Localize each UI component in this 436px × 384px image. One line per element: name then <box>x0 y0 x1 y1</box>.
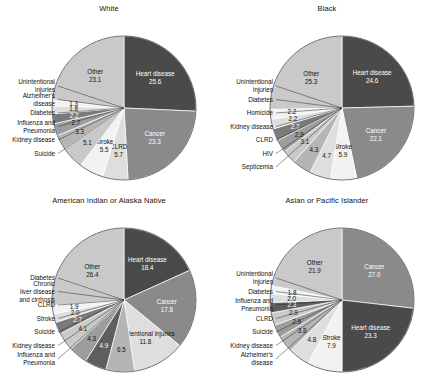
slice-value: 26.4 <box>86 271 99 278</box>
slice-value: 2.7 <box>73 316 82 323</box>
slice-label: Kidney disease <box>12 136 55 144</box>
chart-panel-asian-or-pacific-islander: Asian or Pacific Islander Cancer27.0Hear… <box>218 192 436 384</box>
slice-label: Heart disease <box>353 69 392 76</box>
slice-value: 11.8 <box>140 338 152 345</box>
slice-label: Unintentional <box>236 78 273 85</box>
slice-label: Unintentional <box>18 78 55 85</box>
slice-value: 2.0 <box>71 309 80 316</box>
slice-label: CLRD <box>256 136 274 143</box>
slice-label: Septicemia <box>242 163 274 171</box>
slice-value: 6.5 <box>117 346 126 353</box>
slice-label: Suicide <box>34 328 55 335</box>
slice-label: Diabetes <box>30 109 55 116</box>
slice-value: 1.9 <box>70 303 79 310</box>
slice-value: 3.3 <box>75 128 84 135</box>
slice-value: 3.8 <box>298 327 307 334</box>
slice-label: Cancer <box>157 298 177 305</box>
slice-value: 2.2 <box>70 112 79 119</box>
slice-value: 5.7 <box>114 151 123 158</box>
pie-white: Heart disease25.6Cancer23.3CLRD5.7Stroke… <box>0 0 218 192</box>
slice-value: 2.2 <box>287 108 296 115</box>
slice-label: HIV <box>263 150 274 157</box>
slice-value: 5.1 <box>83 139 92 146</box>
slice-label: injuries <box>253 86 273 94</box>
slice-value: 4.7 <box>322 152 331 159</box>
slice-value: 2.9 <box>289 309 298 316</box>
pie-slice <box>342 300 414 372</box>
slice-label: Pneumonia <box>23 127 55 134</box>
slice-label: CLRD <box>38 301 56 308</box>
slice-value: 18.4 <box>141 264 154 271</box>
slice-value: 2.9 <box>295 131 304 138</box>
slice-value: 1.3 <box>69 100 78 107</box>
slice-label: Other <box>303 70 319 77</box>
slice-label: Kidney disease <box>12 342 55 350</box>
slice-label: Influenza and <box>235 297 273 304</box>
slice-value: 5.9 <box>339 151 348 158</box>
slice-label: Suicide <box>252 328 273 335</box>
chart-panel-white: White Heart disease25.6Cancer23.3CLRD5.7… <box>0 0 218 192</box>
slice-label: Heart disease <box>128 256 167 263</box>
slice-value: 24.6 <box>366 77 379 84</box>
slice-label: Stroke <box>37 315 56 322</box>
slice-value: 5.5 <box>100 146 109 153</box>
slice-label: CLRD <box>256 315 274 322</box>
pie-black: Heart disease24.6Cancer22.1Stroke5.9Othe… <box>218 0 436 192</box>
slice-value: 4.8 <box>307 336 316 343</box>
slice-label: disease <box>33 100 55 107</box>
slice-label: Cancer <box>366 127 386 134</box>
slice-value: 4.3 <box>87 335 96 342</box>
slice-label: Other <box>87 68 103 75</box>
slice-label: Other <box>307 259 323 266</box>
pie-chart-grid: White Heart disease25.6Cancer23.3CLRD5.7… <box>0 0 436 384</box>
slice-label: Suicide <box>34 150 55 157</box>
slice-label: Heart disease <box>351 324 390 331</box>
slice-label: Cancer <box>145 130 165 137</box>
slice-value: 1.8 <box>288 289 297 296</box>
slice-label: Pneumonia <box>23 359 55 366</box>
slice-label: Heart disease <box>136 70 175 77</box>
slice-value: 22.1 <box>370 135 383 142</box>
slice-label: Alzheimer's <box>241 351 273 358</box>
slice-value: 2.0 <box>287 295 296 302</box>
pie-asian-or-pacific-islander: Cancer27.0Heart disease23.3Stroke7.9Othe… <box>218 192 436 384</box>
slice-label: Kidney disease <box>230 123 273 131</box>
slice-value: 2.7 <box>291 123 300 130</box>
slice-label: Chronic <box>33 280 55 287</box>
slice-label: Stroke <box>322 334 341 341</box>
slice-label: Pneumonia <box>241 305 273 312</box>
slice-value: 21.9 <box>309 267 322 274</box>
slice-value: 25.6 <box>149 78 162 85</box>
slice-value: 7.9 <box>327 342 336 349</box>
slice-label: Stroke <box>334 143 353 150</box>
slice-label: Alzheimer's <box>23 92 55 99</box>
slice-label: Diabetes <box>248 96 273 103</box>
slice-value: 2.2 <box>289 115 298 122</box>
slice-value: 4.9 <box>100 342 109 349</box>
slice-label: liver disease <box>20 288 55 295</box>
slice-value: 23.1 <box>89 76 102 83</box>
chart-panel-american-indian-or-alaska-native: American Indian or Alaska Native Heart d… <box>0 192 218 384</box>
slice-value: 2.3 <box>288 301 297 308</box>
slice-value: 23.3 <box>149 138 162 145</box>
slice-label: Diabetes <box>248 288 273 295</box>
slice-label: Influenza and <box>17 351 55 358</box>
slice-value: 4.3 <box>309 146 318 153</box>
slice-value: 23.3 <box>365 332 378 339</box>
slice-label: Influenza and <box>17 119 55 126</box>
slice-label: Homicide <box>247 109 274 116</box>
slice-value: 17.8 <box>161 306 174 313</box>
slice-label: Cancer <box>364 263 384 270</box>
slice-value: 2.9 <box>292 318 301 325</box>
slice-label: Other <box>84 263 100 270</box>
chart-panel-black: Black Heart disease24.6Cancer22.1Stroke5… <box>218 0 436 192</box>
slice-label: Kidney disease <box>230 342 273 350</box>
pie-american-indian-or-alaska-native: Heart disease18.4Cancer17.8Unintentional… <box>0 192 218 384</box>
slice-label: Unintentional <box>236 270 273 277</box>
slice-label: disease <box>251 359 273 366</box>
slice-label: injuries <box>253 278 273 286</box>
slice-value: 25.3 <box>305 78 318 85</box>
slice-value: 27.0 <box>368 271 381 278</box>
